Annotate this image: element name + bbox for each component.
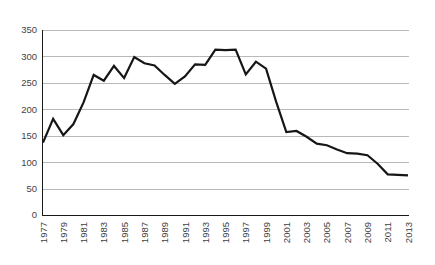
x-tick-label: 2011 — [382, 222, 393, 242]
y-tick-label: 150 — [21, 130, 37, 141]
x-tick-label: 1991 — [180, 222, 191, 243]
line-chart: 050100150200250300350 197719791981198319… — [0, 0, 435, 265]
y-tick-label: 0 — [32, 209, 37, 220]
x-tick-label: 2007 — [342, 222, 353, 243]
x-tick-label: 1985 — [119, 222, 130, 243]
x-tick-label: 1987 — [139, 222, 150, 243]
y-tick-label: 100 — [21, 157, 37, 168]
x-tick-label: 1995 — [220, 222, 231, 243]
y-tick-label: 50 — [26, 183, 37, 194]
y-tick-label: 250 — [21, 77, 37, 88]
x-tick-label: 1993 — [200, 222, 211, 243]
x-tick-label: 1989 — [159, 222, 170, 243]
x-tick-label: 1997 — [240, 222, 251, 243]
y-tick-label: 300 — [21, 51, 37, 62]
x-tick-label: 2013 — [403, 222, 414, 243]
y-tick-label: 350 — [21, 24, 37, 35]
x-tick-label: 1999 — [261, 222, 272, 243]
x-tick-label: 2003 — [301, 222, 312, 243]
chart-canvas: 050100150200250300350 197719791981198319… — [0, 0, 435, 265]
x-tick-label: 1983 — [98, 222, 109, 243]
x-tick-label: 1977 — [38, 222, 49, 243]
x-tick-label: 2001 — [281, 222, 292, 243]
x-tick-label: 2005 — [321, 222, 332, 243]
x-tick-label: 1979 — [58, 222, 69, 243]
x-tick-label: 2009 — [362, 222, 373, 243]
x-tick-label: 1981 — [78, 222, 89, 243]
y-tick-label: 200 — [21, 104, 37, 115]
